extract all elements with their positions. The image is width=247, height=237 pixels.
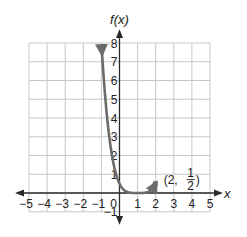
x-tick-label: 4 [189,197,196,211]
y-tick-label: −1 [104,205,118,219]
x-tick-label: −4 [37,197,51,211]
point-label-prefix: (2, [164,173,178,187]
fraction-denominator: 2 [187,179,194,193]
x-tick-label: −3 [55,197,69,211]
x-tick-label: 3 [170,197,177,211]
tick-labels: −5−4−3−2−1012345−112345678 [19,37,214,220]
point-label-suffix: ) [196,173,200,187]
point-marker [153,181,158,186]
x-axis-label: x [223,186,231,201]
y-tick-label: 3 [111,130,118,144]
fraction-numerator: 1 [187,166,194,180]
point-label: (2, 12) [164,166,200,193]
y-tick-label: 5 [111,93,118,107]
x-tick-label: −5 [19,197,33,211]
y-tick-label: 6 [111,74,118,88]
x-tick-label: 5 [207,197,214,211]
y-axis-label: f(x) [110,12,129,27]
x-tick-label: −2 [73,197,87,211]
x-tick-label: 1 [134,197,141,211]
y-tick-label: 7 [111,55,118,69]
function-graph: −5−4−3−2−1012345−112345678 (2, 12) f(x) … [0,0,247,237]
y-tick-label: 8 [111,37,118,51]
x-tick-label: 2 [152,197,159,211]
y-tick-label: 4 [111,112,118,126]
